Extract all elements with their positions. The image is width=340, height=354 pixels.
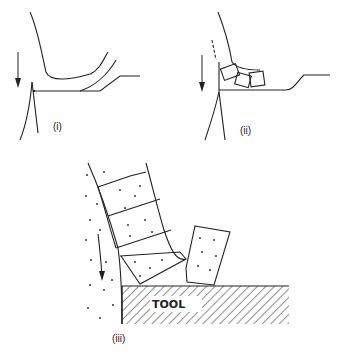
detached-chip-segment — [186, 226, 230, 285]
tool-body — [122, 286, 289, 324]
arrow-down-icon — [199, 55, 205, 92]
chip-formation-diagram: (i) (ii) TOOL — [0, 0, 340, 354]
panel-i: (i) — [15, 12, 140, 140]
label-ii: (ii) — [240, 125, 251, 136]
panel-ii: (ii) — [199, 12, 330, 140]
label-iii: (iii) — [112, 333, 125, 344]
label-i: (i) — [53, 121, 62, 132]
chip-segment — [249, 71, 265, 87]
tool-label: TOOL — [152, 298, 185, 311]
arrow-down-icon — [98, 234, 105, 281]
panel-iii: TOOL (iii) — [85, 163, 289, 344]
arrow-down-icon — [15, 52, 21, 88]
